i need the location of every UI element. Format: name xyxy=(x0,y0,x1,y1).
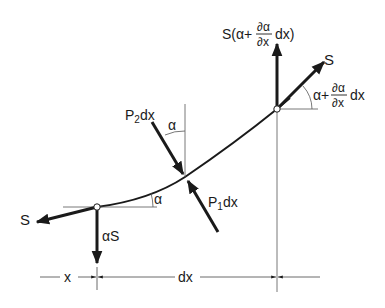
label-alpha-top: α xyxy=(168,117,176,133)
svg-text:∂α: ∂α xyxy=(257,20,270,34)
label-alpha-s: αS xyxy=(102,228,119,244)
svg-text:α+: α+ xyxy=(313,87,329,103)
label-p1dx: P1dx xyxy=(208,194,238,212)
svg-text:∂α: ∂α xyxy=(332,81,345,95)
svg-text:P1dx: P1dx xyxy=(208,194,238,212)
svg-text:S(α+: S(α+ xyxy=(222,26,252,42)
label-s-vertical: S(α+ ∂α ∂x dx) xyxy=(222,20,294,49)
force-s-left-arrow xyxy=(37,207,97,222)
label-dim-x: x xyxy=(64,269,71,285)
node-right xyxy=(274,106,280,112)
label-p2dx: P2dx xyxy=(125,107,155,125)
angle-arc-bottom xyxy=(151,193,153,207)
label-s-right: S xyxy=(324,51,334,68)
svg-text:∂x: ∂x xyxy=(257,35,269,49)
label-alpha-bottom: α xyxy=(154,191,162,207)
node-left xyxy=(94,204,100,210)
svg-text:∂x: ∂x xyxy=(332,96,344,110)
svg-text:P2dx: P2dx xyxy=(125,107,155,125)
svg-text:dx: dx xyxy=(350,87,365,103)
angle-arc-right xyxy=(303,86,312,109)
label-angle-right: α+ ∂α ∂x dx xyxy=(313,81,365,110)
label-s-left: S xyxy=(20,211,30,228)
label-dim-dx: dx xyxy=(178,269,193,285)
svg-text:dx): dx) xyxy=(275,26,294,42)
string-element-diagram: S αS α α P2dx P1dx S S(α+ ∂α ∂x dx) α+ ∂… xyxy=(0,0,385,308)
